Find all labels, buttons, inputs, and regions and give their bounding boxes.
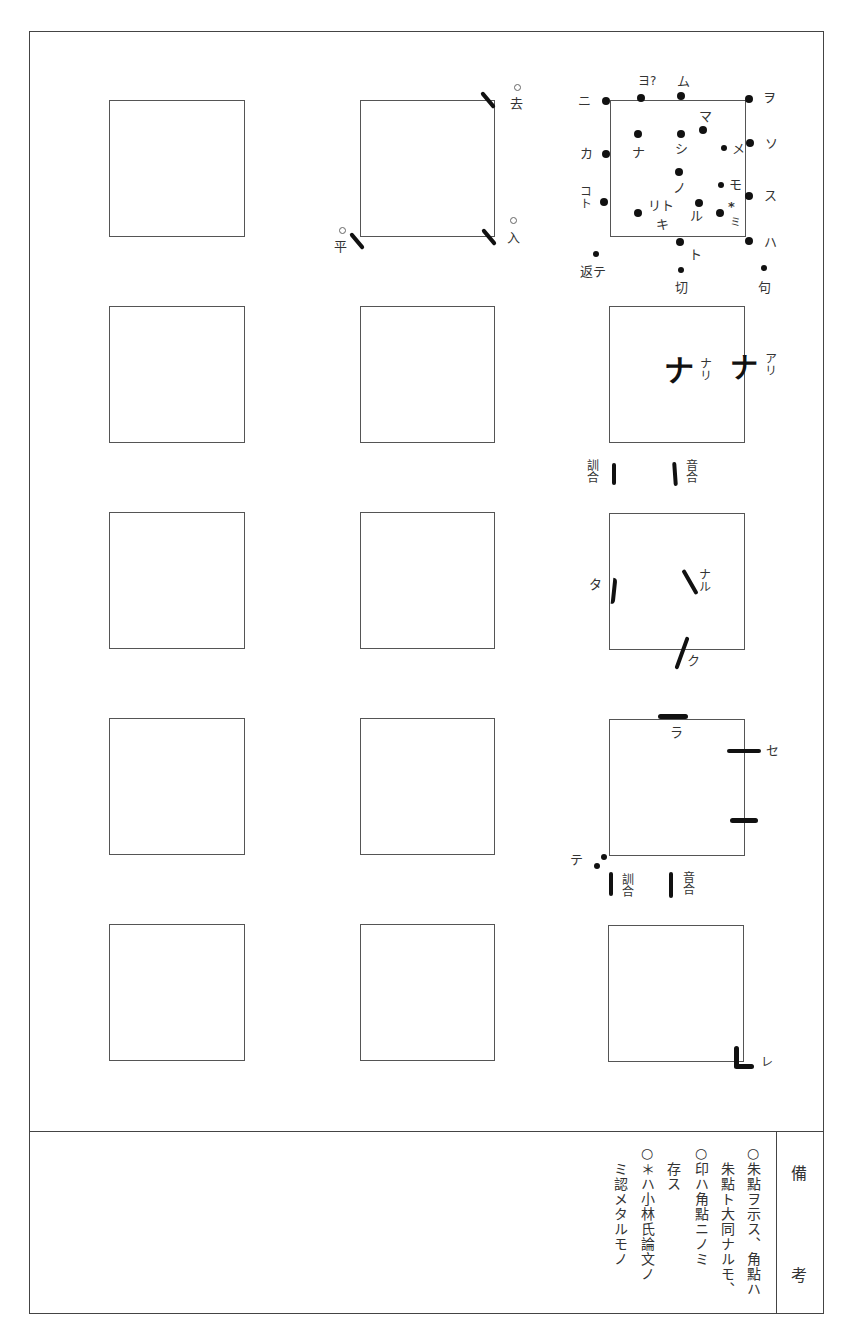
label-kaeri-te: 返テ	[580, 265, 606, 278]
diagram-box-r3-c2	[360, 512, 495, 649]
mark-ongo-bar-2	[669, 872, 673, 898]
label-koto: コト	[578, 185, 591, 209]
label-ru: ル	[690, 209, 703, 222]
diagram-box-r4-c2	[360, 718, 495, 855]
label-mo: モ	[729, 178, 742, 191]
label-ha: ハ	[764, 236, 777, 249]
diagram-box-r3-c1	[109, 512, 245, 649]
dot-yo	[637, 94, 645, 102]
label-ongo-1: 音合	[686, 460, 700, 484]
diagram-box-r2-c2	[360, 306, 495, 443]
label-ki: キ	[656, 218, 669, 231]
label-su: ス	[764, 189, 777, 202]
dot-koto	[600, 198, 608, 206]
diagram-box-r3-c3	[609, 513, 745, 650]
mark-kungo-bar-1	[612, 463, 616, 485]
tone-label-bottom-left: 平	[334, 240, 347, 253]
mark-kungo-bar-2	[609, 872, 613, 896]
tone-circle-bottom-left	[339, 227, 346, 234]
mark-na-glyph-1: ナ	[664, 356, 694, 386]
mark-ra-stroke	[658, 714, 688, 719]
label-te: テ	[570, 853, 583, 866]
dot-setsu	[678, 267, 684, 273]
label-me: メ	[732, 142, 745, 155]
tone-circle-bottom-right	[510, 217, 517, 224]
mark-te-dot-1	[601, 854, 607, 860]
label-setsu: 切	[675, 281, 688, 294]
label-to-left: ト	[578, 197, 592, 209]
label-ra: ラ	[670, 726, 683, 739]
dot-no	[675, 168, 683, 176]
dot-so	[746, 139, 754, 147]
label-yo: ヨ?	[638, 75, 656, 87]
label-rito: リト	[648, 199, 674, 212]
label-ka: カ	[580, 147, 593, 160]
dot-su	[745, 192, 753, 200]
remarks-header-bottom: 考	[791, 1262, 807, 1286]
mark-te-dot-2	[594, 863, 600, 869]
remarks-header: 備 考	[777, 1132, 824, 1314]
dot-mo	[718, 182, 724, 188]
remarks-line-3: ○印ハ角點ニノミ	[694, 1145, 708, 1267]
label-asterisk: *	[728, 200, 735, 213]
label-ari: アリ	[763, 352, 776, 376]
dot-ritoki	[634, 209, 642, 217]
label-wo: ヲ	[763, 91, 776, 104]
label-na: ナ	[632, 146, 645, 159]
label-ku-phrase: 句	[758, 281, 771, 294]
diagram-box-r5-c2	[360, 924, 495, 1061]
dot-mi	[716, 209, 724, 217]
label-naru: ナル	[697, 568, 710, 592]
diagram-box-r1-c1	[109, 100, 245, 237]
diagram-box-r1-c2	[360, 100, 495, 237]
tone-label-top-right: 去	[510, 97, 523, 110]
tone-circle-top-right	[514, 84, 521, 91]
label-ku: ク	[687, 654, 700, 667]
dot-me	[721, 145, 727, 151]
diagram-box-r5-c1	[109, 924, 245, 1061]
label-kungo-2: 訓合	[622, 874, 636, 898]
label-to-bottom: ト	[689, 248, 702, 261]
mark-na-glyph-2: ナ	[730, 355, 758, 383]
diagram-box-r2-c1	[109, 306, 245, 443]
remarks-line-1: ○朱點ヲ示ス、角點ハ	[746, 1145, 760, 1297]
remarks-line-2: 朱點ト大同ナルモ、	[720, 1162, 734, 1297]
remarks-line-6: ミ認メタルモノ	[613, 1162, 627, 1267]
label-no: ノ	[673, 181, 686, 194]
dot-ni	[602, 97, 610, 105]
diagram-box-r4-c1	[109, 718, 245, 855]
dot-mu	[677, 92, 685, 100]
label-ni: ニ	[578, 94, 591, 107]
dot-ma	[699, 126, 707, 134]
dot-ru	[695, 199, 703, 207]
label-kungo-1: 訓合	[587, 460, 601, 484]
dot-ku	[761, 265, 767, 271]
remarks-separator	[29, 1131, 824, 1132]
mark-re-horizontal	[734, 1064, 754, 1069]
remarks-header-top: 備	[791, 1160, 807, 1184]
dot-ha	[745, 237, 753, 245]
label-ta: タ	[589, 578, 602, 591]
remarks-line-4: 存ス	[666, 1162, 680, 1192]
mark-se-stroke	[727, 749, 761, 753]
dot-na	[634, 130, 642, 138]
diagram-box-r5-c3	[608, 925, 744, 1062]
label-re: レ	[761, 1056, 773, 1068]
label-se: セ	[766, 744, 779, 757]
dot-to-bottom	[676, 238, 684, 246]
label-so: ソ	[765, 137, 778, 150]
label-mu: ム	[677, 75, 690, 88]
dot-wo	[745, 95, 753, 103]
dot-ka	[602, 150, 610, 158]
remarks-line-5: ○＊ハ小林氏論文ノ	[640, 1145, 654, 1282]
dot-shi	[677, 130, 685, 138]
mark-lower-dash	[730, 818, 758, 823]
label-nari: ナリ	[698, 357, 711, 381]
tone-label-bottom-right: 入	[507, 231, 520, 244]
label-ongo-2: 音合	[683, 872, 697, 896]
label-shi: シ	[675, 142, 688, 155]
label-ma: マ	[699, 110, 712, 123]
label-mi: ミ	[730, 217, 741, 228]
label-ko: コ	[578, 185, 592, 197]
dot-kaeri-te	[593, 251, 599, 257]
